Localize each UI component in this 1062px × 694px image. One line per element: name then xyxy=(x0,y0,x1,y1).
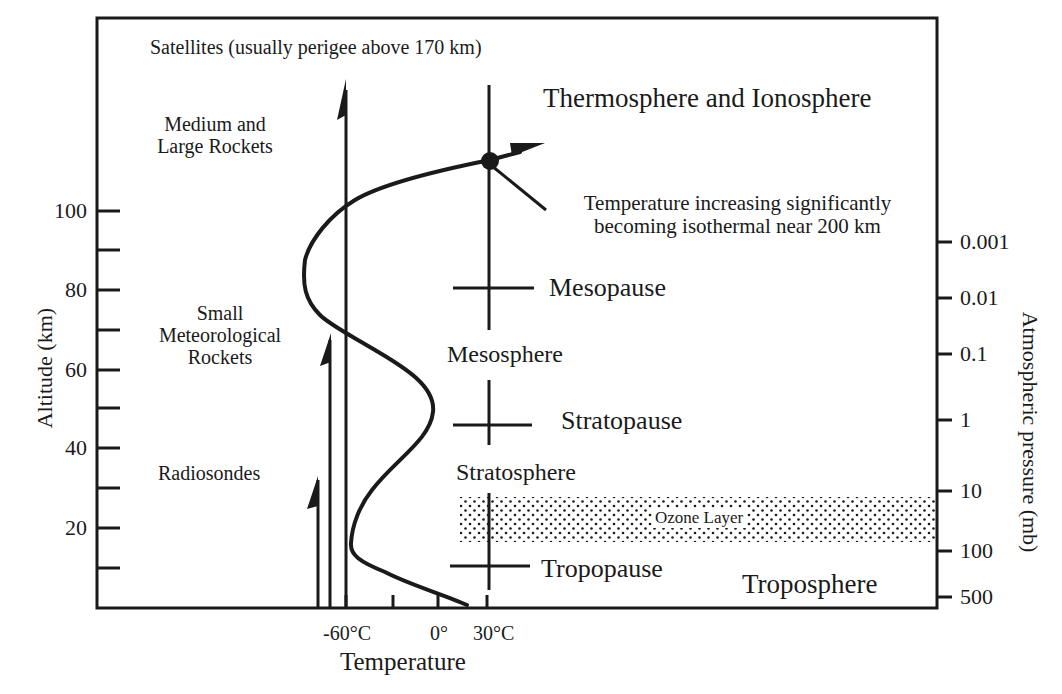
troposphere-label: Troposphere xyxy=(742,570,878,600)
temperature-tick-minus60: -60°C xyxy=(323,622,371,644)
altitude-tick-100: 100 xyxy=(54,199,87,223)
temperature-tick-0: 0° xyxy=(430,622,448,644)
mesosphere-label: Mesosphere xyxy=(447,341,563,367)
small-met-rockets-label: Small Meteorological Rockets xyxy=(140,302,300,368)
altitude-tick-40: 40 xyxy=(65,436,87,460)
pressure-tick-10: 10 xyxy=(960,479,982,503)
small-met-rockets-line1: Small xyxy=(140,302,300,324)
pressure-tick-0001: 0.001 xyxy=(960,230,1010,254)
small-met-rocket-line xyxy=(320,333,331,608)
stratopause-label: Stratopause xyxy=(561,407,682,436)
pressure-tick-100: 100 xyxy=(960,539,993,563)
annotation-pointer xyxy=(492,166,546,210)
stratosphere-label: Stratosphere xyxy=(456,459,576,485)
curve-arrowhead xyxy=(510,143,545,156)
thermosphere-label: Thermosphere and Ionosphere xyxy=(543,84,871,114)
pressure-tick-500: 500 xyxy=(960,585,993,609)
pressure-tick-001: 0.01 xyxy=(960,286,999,310)
radiosondes-label: Radiosondes xyxy=(158,462,260,484)
isothermal-annotation: Temperature increasing significantly bec… xyxy=(545,192,930,238)
medium-large-rockets-line2: Large Rockets xyxy=(140,135,290,157)
temperature-tick-30: 30°C xyxy=(473,622,514,644)
altitude-tick-20: 20 xyxy=(65,516,87,540)
left-axis-ticks xyxy=(97,211,120,568)
right-axis-ticks xyxy=(937,242,952,597)
annotation-line1: Temperature increasing significantly xyxy=(545,192,930,215)
pressure-axis-label: Atmospheric pressure (mb) xyxy=(1018,302,1042,562)
temperature-axis-label: Temperature xyxy=(340,648,466,676)
medium-large-rocket-line xyxy=(337,79,346,608)
medium-large-rockets-line1: Medium and xyxy=(140,113,290,135)
radiosonde-line xyxy=(307,476,318,608)
satellites-label: Satellites (usually perigee above 170 km… xyxy=(150,36,482,58)
altitude-tick-60: 60 xyxy=(65,358,87,382)
small-met-rockets-line3: Rockets xyxy=(140,346,300,368)
altitude-axis-label: Altitude (km) xyxy=(33,298,57,438)
pressure-tick-1: 1 xyxy=(960,408,971,432)
tropopause-label: Tropopause xyxy=(541,555,663,584)
medium-large-rockets-label: Medium and Large Rockets xyxy=(140,113,290,157)
mesopause-label: Mesopause xyxy=(549,274,666,303)
altitude-tick-80: 80 xyxy=(65,278,87,302)
annotation-line2: becoming isothermal near 200 km xyxy=(545,215,930,238)
pressure-tick-01: 0.1 xyxy=(960,342,988,366)
isothermal-point xyxy=(481,152,499,170)
small-met-rockets-line2: Meteorological xyxy=(140,324,300,346)
ozone-layer-label: Ozone Layer xyxy=(652,509,746,528)
